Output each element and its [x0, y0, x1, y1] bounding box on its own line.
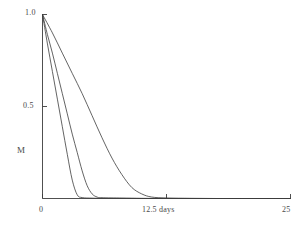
y-axis-title: M [17, 145, 25, 155]
y-tick-label-05: 0.5 [23, 101, 34, 110]
chart-screenshot: 1.0 0.5 M 0 12.5 days 25 [0, 0, 307, 230]
curve-medium-decay [43, 15, 291, 199]
y-tick-label-1: 1.0 [25, 8, 36, 17]
decay-curve-plot [0, 0, 307, 230]
axes-group [43, 15, 291, 199]
x-tick-label-25: 25 [282, 205, 290, 214]
curves-group [43, 15, 291, 199]
curve-fast-decay [43, 15, 291, 199]
x-tick-label-0: 0 [39, 205, 43, 214]
curve-slow-decay [43, 15, 291, 199]
x-tick-label-midpoint: 12.5 days [142, 205, 174, 214]
